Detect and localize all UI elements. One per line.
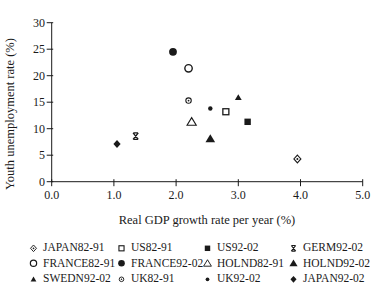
triangle-open-icon [201, 257, 214, 269]
data-point-FRANCE92-02 [169, 48, 177, 56]
x-tick-label: 0.0 [44, 188, 59, 202]
legend-item-JAPAN82-91: JAPAN82-91 [27, 241, 115, 254]
legend-item-GERM92-02: GERM92-02 [287, 241, 379, 254]
chart-legend: JAPAN82-91US82-91US92-02GERM92-02FRANCE8… [27, 241, 379, 285]
x-tick-label: 3.0 [231, 188, 246, 202]
y-tick-label: 25 [33, 42, 45, 56]
legend-item-FRANCE82-91: FRANCE82-91 [27, 257, 115, 270]
legend-item-UK92-02: UK92-02 [201, 272, 287, 285]
legend-label: FRANCE82-91 [43, 257, 115, 270]
axes: 0510152025300.01.02.03.04.05.0 [33, 16, 370, 202]
data-point-GERM92-02 [133, 133, 138, 140]
data-point-FRANCE82-91 [185, 65, 192, 72]
data-point-US82-91 [223, 109, 229, 115]
x-tick-label: 4.0 [293, 188, 308, 202]
circle-open-icon [27, 257, 40, 269]
x-tick-label: 5.0 [355, 188, 370, 202]
legend-item-UK82-91: UK82-91 [115, 272, 201, 285]
legend-label: FRANCE92-02 [131, 257, 203, 270]
legend-label: US82-91 [131, 241, 173, 254]
circle-filled-small-icon [201, 273, 214, 285]
legend-label: JAPAN82-91 [43, 241, 105, 254]
x-axis-title: Real GDP growth rate per year (%) [119, 213, 296, 227]
circle-dot-icon [115, 273, 128, 285]
data-point-UK82-91 [186, 98, 191, 103]
y-tick-label: 20 [33, 69, 45, 83]
legend-label: GERM92-02 [303, 241, 363, 254]
square-open-icon [115, 242, 128, 254]
data-point-US92-02 [244, 119, 250, 125]
x-tick-label: 2.0 [169, 188, 184, 202]
legend-label: US92-02 [217, 241, 259, 254]
triangle-filled-icon [287, 257, 300, 269]
legend-label: SWEDN92-02 [43, 272, 111, 285]
legend-label: HOLND92-02 [303, 257, 370, 270]
legend-item-US82-91: US82-91 [115, 241, 201, 254]
legend-label: JAPAN92-02 [303, 272, 365, 285]
scatter-chart-figure: Youth unemployment rate (%) Real GDP gro… [0, 0, 382, 298]
legend-item-JAPAN92-02: JAPAN92-02 [287, 272, 379, 285]
x-tick-label: 1.0 [106, 188, 121, 202]
legend-item-HOLND82-91: HOLND82-91 [201, 257, 287, 270]
data-point-HOLND92-02 [206, 134, 216, 142]
square-filled-icon [201, 242, 214, 254]
triangle-filled-small-icon [27, 273, 40, 285]
legend-item-US92-02: US92-02 [201, 241, 287, 254]
legend-item-SWEDN92-02: SWEDN92-02 [27, 272, 115, 285]
legend-item-FRANCE92-02: FRANCE92-02 [115, 257, 201, 270]
y-tick-label: 10 [33, 122, 45, 136]
legend-label: UK82-91 [131, 272, 174, 285]
legend-label: HOLND82-91 [217, 257, 284, 270]
y-tick-label: 30 [33, 16, 45, 30]
diamond-dot-icon [27, 242, 40, 254]
x-bars-icon [287, 242, 300, 254]
legend-label: UK92-02 [217, 272, 260, 285]
circle-filled-icon [115, 257, 128, 269]
data-point-JAPAN92-02 [113, 140, 120, 148]
y-tick-label: 15 [33, 95, 45, 109]
plot-area: Youth unemployment rate (%) Real GDP gro… [0, 0, 382, 234]
data-points [113, 48, 300, 163]
y-tick-label: 5 [39, 148, 45, 162]
y-axis-title: Youth unemployment rate (%) [3, 38, 17, 190]
diamond-filled-icon [287, 273, 300, 285]
data-point-UK92-02 [208, 106, 212, 110]
legend-item-HOLND92-02: HOLND92-02 [287, 257, 379, 270]
y-tick-label: 0 [39, 175, 45, 189]
data-point-JAPAN82-91 [294, 155, 301, 163]
data-point-HOLND82-91 [187, 118, 196, 126]
data-point-SWEDN92-02 [235, 94, 242, 100]
